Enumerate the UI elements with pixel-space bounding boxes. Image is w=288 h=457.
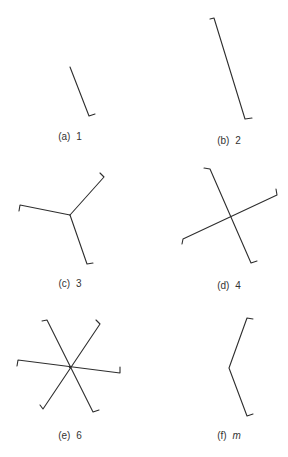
panel-f-label: (f) m xyxy=(217,430,241,441)
arm-with-hook xyxy=(70,67,95,116)
panel-c-label: (c) 3 xyxy=(58,278,81,289)
panel-d-label: (d) 4 xyxy=(217,280,241,291)
panel-f-mirror: (f) m xyxy=(217,318,253,441)
panel-letter: (c) xyxy=(58,278,70,289)
axis-shallow xyxy=(182,189,277,244)
arm-upper-right xyxy=(70,173,104,215)
mirror-chevron xyxy=(229,318,253,416)
arm-left xyxy=(19,205,70,215)
panel-a-label: (a) 1 xyxy=(58,131,82,142)
panel-letter: (d) xyxy=(217,280,229,291)
panel-c-threefold: (c) 3 xyxy=(19,173,104,289)
panel-fold: 2 xyxy=(235,135,241,146)
axis-steep xyxy=(204,168,257,263)
panel-b-label: (b) 2 xyxy=(217,135,241,146)
panel-d-fourfold: (d) 4 xyxy=(182,168,277,291)
arm-with-hooks xyxy=(210,18,252,119)
panel-fold: 1 xyxy=(76,131,82,142)
panel-fold: 3 xyxy=(76,278,82,289)
center-point xyxy=(69,366,71,368)
panel-a-onefold: (a) 1 xyxy=(58,67,95,142)
panel-e-sixfold: (e) 6 xyxy=(17,320,120,441)
panel-fold: 6 xyxy=(76,430,82,441)
panel-e-label: (e) 6 xyxy=(58,430,82,441)
arm-bottom xyxy=(70,215,93,264)
symmetry-figure: (a) 1 (b) 2 (c) 3 (d) 4 xyxy=(0,0,288,457)
panel-letter: (f) xyxy=(217,430,226,441)
panel-letter: (a) xyxy=(58,131,70,142)
panel-fold: 4 xyxy=(235,280,241,291)
panel-b-twofold: (b) 2 xyxy=(210,18,252,146)
panel-letter: (e) xyxy=(58,430,70,441)
panel-fold: m xyxy=(232,430,240,441)
panel-letter: (b) xyxy=(217,135,229,146)
